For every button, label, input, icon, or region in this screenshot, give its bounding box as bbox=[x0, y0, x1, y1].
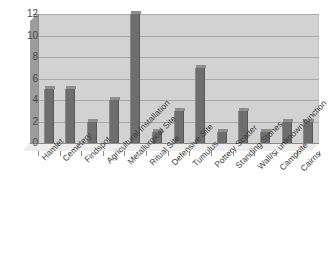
bar-slot bbox=[44, 14, 54, 143]
bar-slot bbox=[65, 14, 75, 143]
x-axis-category-labels: HamletCemeteryFindspotAgricultural Insta… bbox=[0, 156, 335, 263]
bar-slot bbox=[260, 14, 270, 143]
bar bbox=[44, 89, 54, 143]
bar-slot bbox=[109, 14, 119, 143]
bar bbox=[109, 100, 119, 143]
bar bbox=[65, 89, 75, 143]
bar bbox=[217, 132, 227, 143]
bar-slot bbox=[195, 14, 205, 143]
bar-slot bbox=[282, 14, 292, 143]
bar-slot bbox=[238, 14, 248, 143]
bar-chart: 024681012 HamletCemeteryFindspotAgricult… bbox=[0, 0, 335, 263]
bar-slot bbox=[217, 14, 227, 143]
bar-slot bbox=[87, 14, 97, 143]
